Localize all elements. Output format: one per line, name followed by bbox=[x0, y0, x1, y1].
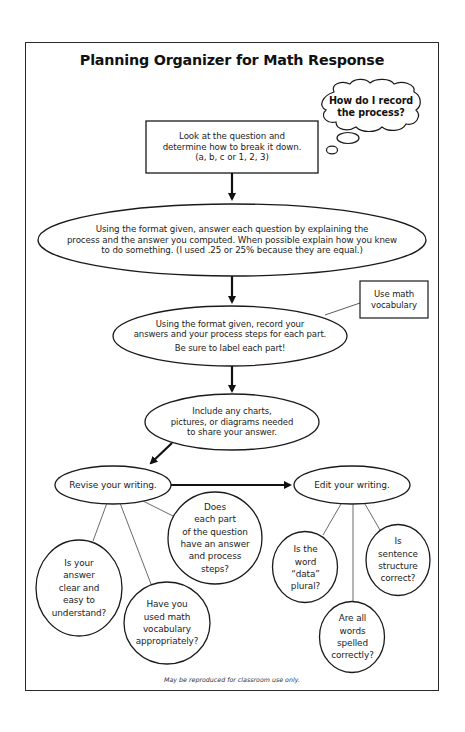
question-line: word bbox=[295, 556, 316, 568]
question-line: “data” bbox=[291, 568, 320, 580]
question-line: plural? bbox=[291, 580, 320, 592]
question-line: clear and bbox=[59, 582, 100, 594]
step-revise-text: Revise your writing. bbox=[56, 467, 170, 503]
question-line: vocabulary bbox=[143, 623, 191, 635]
question-line: sentence bbox=[378, 548, 418, 560]
question-line: correctly? bbox=[331, 649, 374, 661]
question-line: Are all bbox=[339, 612, 366, 624]
question-line: Is the bbox=[293, 543, 317, 555]
question-line: structure bbox=[378, 560, 417, 572]
question-line: words bbox=[340, 625, 366, 637]
side-note-line: Use math bbox=[374, 289, 414, 299]
step-line: pictures, or diagrams needed bbox=[171, 417, 293, 427]
step-line: answers and your process steps for each … bbox=[134, 329, 326, 339]
question-line: used math bbox=[144, 611, 190, 623]
step-line: to do something. (I used .25 or 25% beca… bbox=[101, 245, 363, 256]
side-note-line: vocabulary bbox=[371, 300, 417, 310]
step-line: Look at the question and bbox=[179, 131, 285, 142]
step-line: Be sure to label each part! bbox=[175, 343, 286, 353]
question-line: answer bbox=[63, 569, 94, 581]
question-line: Have you bbox=[146, 598, 187, 610]
question-line: each part bbox=[194, 513, 236, 525]
question-line: easy to bbox=[63, 594, 95, 606]
question-sentence-structure: Is sentence structure correct? bbox=[366, 525, 430, 595]
step-line: to share your answer. bbox=[187, 427, 277, 437]
step-break-down-text: Look at the question and determine how t… bbox=[146, 121, 318, 173]
question-line: of the question bbox=[182, 526, 248, 538]
question-line: Is your bbox=[64, 557, 93, 569]
question-each-part: Does each part of the question have an a… bbox=[168, 493, 262, 583]
step-include-charts-text: Include any charts, pictures, or diagram… bbox=[147, 396, 317, 448]
step-line: process and the answer you computed. Whe… bbox=[67, 235, 397, 246]
step-line: Using the format given, record your bbox=[156, 319, 304, 329]
footer-note: May be reproduced for classroom use only… bbox=[25, 676, 439, 683]
step-answer-each-text: Using the format given, answer each ques… bbox=[40, 206, 424, 274]
step-line: Edit your writing. bbox=[314, 480, 389, 491]
step-line: Using the format given, answer each ques… bbox=[96, 224, 369, 235]
thought-line: How do I record bbox=[329, 95, 413, 107]
question-line: appropriately? bbox=[136, 635, 199, 647]
question-line: and process bbox=[189, 550, 242, 562]
question-line: Does bbox=[204, 501, 226, 513]
thought-bubble-text: How do I record the process? bbox=[322, 88, 420, 126]
question-line: correct? bbox=[381, 572, 416, 584]
question-math-vocabulary: Have you used math vocabulary appropriat… bbox=[124, 583, 210, 663]
question-line: steps? bbox=[201, 563, 229, 575]
question-line: Is bbox=[394, 535, 401, 547]
question-spelled-correctly: Are all words spelled correctly? bbox=[320, 602, 385, 672]
step-line: (a, b, c or 1, 2, 3) bbox=[195, 152, 268, 163]
step-line: Include any charts, bbox=[192, 406, 271, 416]
side-note-text: Use math vocabulary bbox=[360, 281, 428, 318]
step-edit-text: Edit your writing. bbox=[295, 467, 409, 503]
question-clear-easy: Is your answer clear and easy to underst… bbox=[36, 541, 122, 635]
question-line: spelled bbox=[337, 637, 368, 649]
step-line: determine how to break it down. bbox=[163, 142, 302, 153]
question-line: understand? bbox=[52, 607, 106, 619]
thought-line: the process? bbox=[337, 107, 404, 119]
step-line: Revise your writing. bbox=[69, 480, 156, 491]
step-record-answers-text: Using the format given, record your answ… bbox=[115, 308, 345, 364]
question-line: have an answer bbox=[180, 538, 249, 550]
page-title: Planning Organizer for Math Response bbox=[25, 52, 439, 68]
question-data-plural: Is the word “data” plural? bbox=[273, 533, 338, 603]
